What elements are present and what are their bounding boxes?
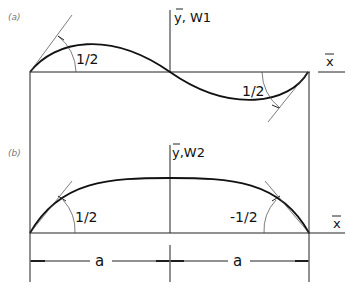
x-axis-b-label: x	[333, 216, 341, 231]
dimension-right-label: a	[233, 252, 242, 270]
angle-arc-a-left	[58, 36, 76, 72]
panel-b-label: (b)	[8, 148, 21, 158]
angle-arc-b-left	[63, 200, 75, 233]
angle-a-left-label: 1/2	[76, 51, 99, 67]
angle-arc-a-right	[262, 72, 280, 108]
angle-b-left-label: 1/2	[75, 209, 98, 225]
dimension-left-label: a	[95, 252, 104, 270]
angle-b-right-label: -1/2	[230, 209, 258, 225]
angle-arc-b-right	[264, 200, 276, 233]
y-axis-a-label: y, W1	[174, 10, 211, 25]
tangent-b-right	[265, 181, 309, 233]
angle-a-right-label: 1/2	[242, 83, 265, 99]
arc-tick-a-left	[58, 36, 64, 40]
x-axis-a-label: x	[326, 54, 334, 69]
y-axis-b-label: y,W2	[172, 145, 205, 160]
mode-shape-diagram: (a) y, W1 x 1/2 1/2 (b) y,W2 x 1/2 -1/2 …	[0, 0, 354, 289]
panel-a-label: (a)	[8, 12, 21, 22]
tangent-b-left	[30, 181, 72, 233]
